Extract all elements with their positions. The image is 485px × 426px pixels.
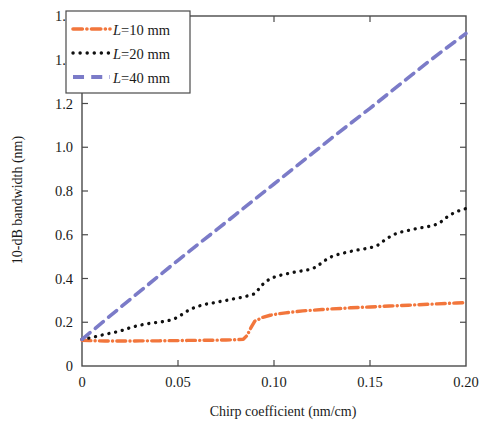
legend-label-2: L=40 mm xyxy=(112,70,171,86)
x-tick-label: 0 xyxy=(78,374,85,390)
y-axis-title: 10-dB bandwidth (nm) xyxy=(10,136,26,265)
x-tick-label: 0.20 xyxy=(453,374,478,390)
y-tick-label: 1.0 xyxy=(55,139,73,155)
y-tick-label: 0.4 xyxy=(55,271,74,287)
legend-label-1: L=20 mm xyxy=(112,46,171,62)
x-tick-label: 0.15 xyxy=(357,374,382,390)
bandwidth-vs-chirp-chart: 00.20.40.60.81.01.21.41.6 00.050.100.150… xyxy=(0,0,485,426)
y-tick-label: 1.2 xyxy=(55,96,73,112)
x-tick-label: 0.05 xyxy=(165,374,190,390)
chart-legend: L=10 mmL=20 mmL=40 mm xyxy=(66,11,190,93)
x-axis-title: Chirp coefficient (nm/cm) xyxy=(210,404,357,420)
x-tick-label: 0.10 xyxy=(261,374,286,390)
y-tick-label: 0.6 xyxy=(55,227,73,243)
legend-label-0: L=10 mm xyxy=(112,22,171,38)
y-tick-label: 0.2 xyxy=(55,314,73,330)
y-tick-label: 0 xyxy=(66,358,73,374)
chart-figure: 00.20.40.60.81.01.21.41.6 00.050.100.150… xyxy=(0,0,485,426)
y-tick-label: 0.8 xyxy=(55,183,73,199)
